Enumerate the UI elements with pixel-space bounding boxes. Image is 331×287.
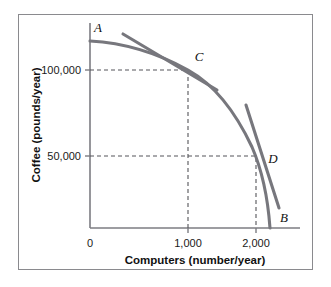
x-tick-label-2000: 2,000 — [242, 237, 270, 249]
x-axis-title: Computers (number/year) — [125, 254, 266, 266]
x-tick-label-1000: 1,000 — [174, 237, 202, 249]
guide-line-d — [90, 156, 256, 228]
point-label-d: D — [267, 151, 278, 166]
point-label-c: C — [195, 49, 204, 64]
point-label-b: B — [280, 210, 288, 225]
figure-frame: 100,000 50,000 0 1,000 2,000 Computers (… — [18, 14, 313, 270]
ppf-chart: 100,000 50,000 0 1,000 2,000 Computers (… — [19, 15, 312, 269]
y-tick-label-100000: 100,000 — [41, 64, 81, 76]
x-tick-label-0: 0 — [87, 237, 93, 249]
guide-line-c — [90, 70, 188, 228]
y-tick-label-50000: 50,000 — [47, 150, 81, 162]
point-label-a: A — [93, 20, 102, 35]
y-axis-title: Coffee (pounds/year) — [30, 67, 42, 182]
